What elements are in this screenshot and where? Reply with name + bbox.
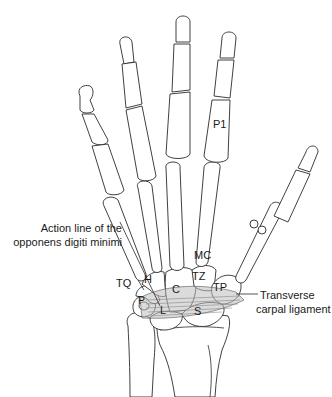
label-TP: TP bbox=[213, 281, 227, 293]
label-L: L bbox=[160, 304, 166, 316]
callout-transverse-carpal-ligament: Transverse carpal ligament bbox=[256, 288, 331, 316]
transverse-carpal-ligament-shape bbox=[140, 286, 244, 318]
label-P: P bbox=[138, 294, 145, 306]
label-P1: P1 bbox=[213, 118, 226, 130]
label-S: S bbox=[194, 305, 201, 317]
hand-skeleton-illustration bbox=[0, 0, 332, 397]
callout-opponens-line1: Action line of the bbox=[10, 221, 122, 235]
label-H: H bbox=[144, 273, 152, 285]
callout-opponens-line2: opponens digiti minimi bbox=[10, 235, 122, 249]
callout-ligament-line1: Transverse bbox=[256, 288, 331, 302]
label-TZ: TZ bbox=[192, 270, 205, 282]
label-MC: MC bbox=[194, 249, 211, 261]
index-finger-bones bbox=[204, 32, 236, 162]
ring-finger-bones bbox=[120, 37, 156, 181]
middle-finger-bones bbox=[166, 16, 190, 159]
label-TQ: TQ bbox=[116, 277, 131, 289]
label-C: C bbox=[172, 283, 180, 295]
callout-opponens: Action line of the opponens digiti minim… bbox=[10, 221, 122, 249]
thumb-bones bbox=[250, 146, 318, 234]
callout-ligament-line2: carpal ligament bbox=[256, 302, 331, 316]
little-finger-bones bbox=[79, 85, 124, 194]
